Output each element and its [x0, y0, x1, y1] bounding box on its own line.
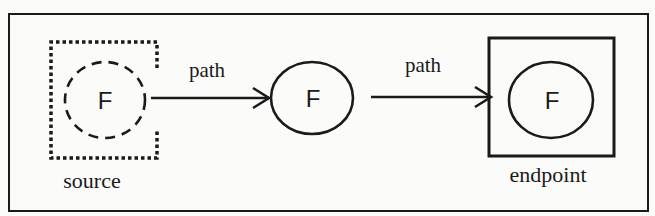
endpoint-letter: F: [545, 87, 560, 114]
edge-middle-to-endpoint: path: [371, 53, 491, 107]
endpoint-caption: endpoint: [510, 162, 587, 187]
edge-label: path: [405, 53, 442, 77]
middle-node: F: [271, 62, 353, 134]
source-caption: source: [63, 168, 120, 193]
endpoint-node: F endpoint: [489, 38, 614, 187]
middle-letter: F: [306, 85, 321, 112]
flow-diagram: F source path F path F endpoint: [0, 0, 655, 216]
source-letter: F: [98, 87, 113, 114]
edge-source-to-middle: path: [151, 58, 269, 108]
source-node: F source: [51, 42, 157, 193]
edge-label: path: [189, 58, 226, 82]
